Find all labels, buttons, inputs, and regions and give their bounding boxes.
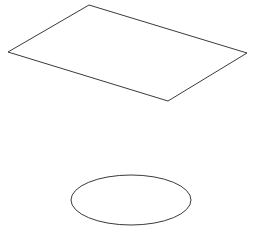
figure-canvas [0,0,254,235]
figure-svg [0,0,254,235]
perspective-rectangle-shape [8,5,247,101]
ellipse-shape [71,175,191,225]
